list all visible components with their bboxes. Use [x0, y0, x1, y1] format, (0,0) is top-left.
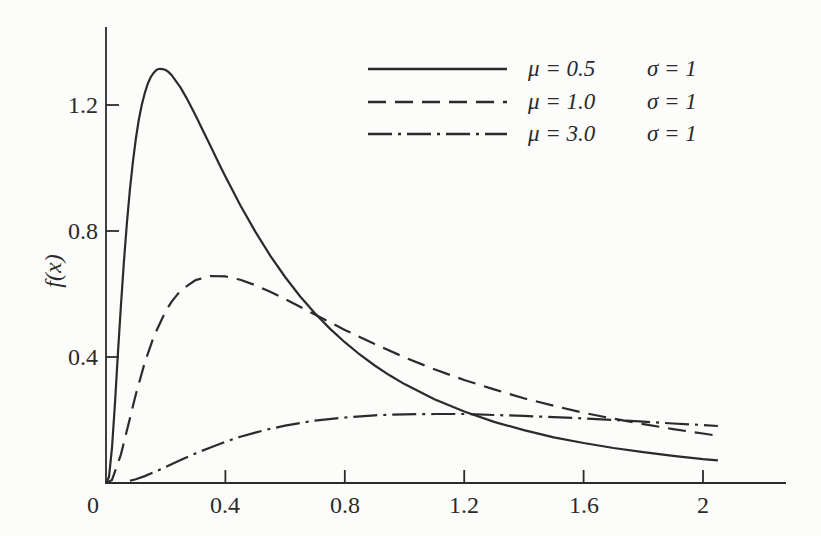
- x-tick-label-1.2: 1.2: [449, 492, 479, 518]
- legend-mu-label: μ = 0.5: [528, 55, 595, 83]
- origin-label: 0: [87, 492, 99, 518]
- x-tick-label-1.6: 1.6: [569, 492, 599, 518]
- legend-mu-label: μ = 1.0: [528, 88, 595, 116]
- legend-row-mu-0.5: μ = 0.5 σ = 1: [528, 55, 778, 83]
- curve-mu-1.0: [106, 276, 718, 483]
- legend-row-mu-1.0: μ = 1.0 σ = 1: [528, 88, 778, 116]
- lognormal-density-figure: f(x) 0.4 0.8 1.2 0 0.4 0.8 1.2 1.6 2 μ =…: [0, 0, 821, 536]
- x-tick-label-0.4: 0.4: [210, 492, 240, 518]
- legend-sigma-label: σ = 1: [647, 55, 697, 83]
- x-tick-label-0.8: 0.8: [330, 492, 360, 518]
- curve-mu-3.0: [130, 414, 718, 481]
- legend-sigma-label: σ = 1: [647, 88, 697, 116]
- legend-row-mu-3.0: μ = 3.0 σ = 1: [528, 120, 778, 148]
- y-tick-label-1.2: 1.2: [28, 91, 98, 119]
- y-tick-label-0.8: 0.8: [28, 217, 98, 245]
- x-tick-label-2: 2: [697, 492, 709, 518]
- legend-mu-label: μ = 3.0: [528, 120, 595, 148]
- y-tick-label-0.4: 0.4: [28, 343, 98, 371]
- legend-sigma-label: σ = 1: [647, 120, 697, 148]
